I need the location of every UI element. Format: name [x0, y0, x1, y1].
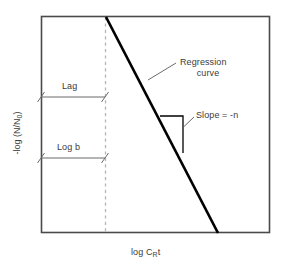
plot-frame [42, 17, 270, 233]
y-axis-label-wrapper: -log (N/N0) [0, 94, 34, 174]
x-axis-label: log CRt [131, 247, 160, 258]
y-axis-label: -log (N/N0) [12, 92, 22, 174]
regression-curve-label-line1: Regression [180, 57, 227, 67]
x-axis-label-subscript: R [153, 251, 158, 258]
y-axis-label-subscript: 0 [16, 115, 23, 119]
y-axis-label-text: -log (N/N [12, 118, 22, 154]
chart-figure: -log (N/N0) log CRt Lag Log b Regression… [0, 0, 290, 273]
log-b-label: Log b [57, 142, 80, 153]
slope-label: Slope = -n [196, 110, 238, 121]
x-axis-label-tail: t [158, 247, 161, 257]
chart-canvas [0, 0, 290, 273]
regression-curve-label: Regression curve [180, 57, 242, 79]
regression-curve-label-line2: curve [180, 68, 236, 79]
x-axis-label-text: log C [131, 247, 153, 257]
lag-label: Lag [62, 81, 77, 92]
